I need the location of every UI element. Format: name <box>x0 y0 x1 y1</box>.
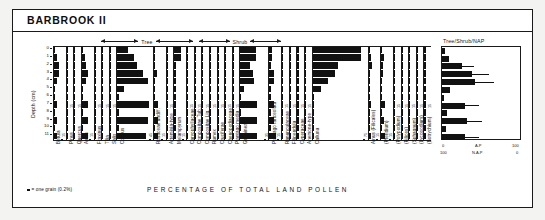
pollen-bar <box>282 125 283 131</box>
pollen-bar <box>225 94 226 100</box>
pollen-bar <box>187 117 188 123</box>
pollen-bar <box>74 54 75 60</box>
pollen-bar <box>233 62 234 68</box>
pollen-bar <box>218 62 219 68</box>
pollen-bar <box>167 62 168 68</box>
pollen-bar <box>110 47 111 53</box>
pollen-bar <box>313 70 336 76</box>
ap-nap-whisker <box>475 82 495 83</box>
pollen-bar <box>269 47 271 53</box>
pollen-bar <box>305 78 306 84</box>
pollen-bar <box>167 86 168 92</box>
pollen-bar <box>117 47 128 53</box>
pollen-bar <box>233 78 234 84</box>
pollen-bar <box>381 70 382 76</box>
pollen-bar <box>297 70 298 76</box>
taxon-label: Ranunculaceae <box>285 111 290 144</box>
depth-tick-mark <box>50 72 52 73</box>
pollen-bar <box>110 70 111 76</box>
pollen-bar <box>417 70 418 76</box>
pollen-bar <box>381 78 382 84</box>
pollen-bar <box>381 54 383 60</box>
ap-nap-whisker <box>472 74 490 75</box>
pollen-bar <box>210 133 211 139</box>
pollen-bar <box>154 101 157 107</box>
group-header-shrub-label: Shrub <box>230 39 251 45</box>
pollen-bar <box>402 117 403 123</box>
pollen-bar <box>313 54 362 60</box>
pollen-bar <box>297 133 298 139</box>
column-scale-label: 15 <box>376 133 380 137</box>
pollen-bar <box>218 109 219 115</box>
pollen-bar <box>381 101 384 107</box>
taxon-label: Cyperaceae <box>300 118 305 144</box>
pollen-bar <box>369 101 371 107</box>
group-header-shrub: Shrub <box>199 37 281 46</box>
pollen-bar <box>233 47 234 53</box>
pollen-bar <box>313 117 314 123</box>
pollen-bar <box>95 70 96 76</box>
pollen-bar <box>225 78 226 84</box>
pollen-bar <box>225 109 226 115</box>
pollen-bar <box>154 125 155 131</box>
pollen-bar <box>95 109 96 115</box>
pollen-bar <box>225 101 226 107</box>
ap-nap-bar <box>442 87 450 93</box>
pollen-bar <box>402 47 403 53</box>
pollen-bar <box>195 70 196 76</box>
pollen-bar <box>174 86 175 92</box>
pollen-bar <box>174 70 175 76</box>
depth-tick-mark <box>50 64 52 65</box>
pollen-bar <box>394 133 395 139</box>
pollen-bar <box>110 109 111 115</box>
pollen-bar <box>82 94 83 100</box>
pollen-bar <box>202 86 203 92</box>
group-header-tree: Tree <box>101 37 193 46</box>
taxon-column <box>53 46 63 140</box>
figure-frame: BARBROOK II Tree Shrub Tree/Shrub/NAP De… <box>12 9 533 208</box>
pollen-bar <box>240 70 252 76</box>
pollen-bar <box>117 101 148 107</box>
pollen-bar <box>174 94 175 100</box>
pollen-bar <box>381 86 382 92</box>
taxon-label: Betula <box>56 130 61 144</box>
pollen-bar <box>187 125 188 131</box>
pollen-bar <box>74 125 75 131</box>
pollen-bar <box>269 94 270 100</box>
pollen-bar <box>402 109 403 115</box>
column-scale-label: 35 <box>265 133 269 137</box>
pollen-bar <box>102 62 103 68</box>
column-scale-label: 15 <box>78 104 82 108</box>
taxon-label: Rumex <box>212 129 217 144</box>
column-scale-label: 45 <box>149 133 153 137</box>
pollen-bar <box>290 70 291 76</box>
taxon-label: Filipendula <box>292 121 297 144</box>
pollen-bar <box>409 54 410 60</box>
pollen-bar <box>297 94 298 100</box>
pollen-bar <box>394 101 395 107</box>
pollen-bar <box>297 47 298 53</box>
pollen-bar <box>82 54 85 60</box>
column-scale-label: 75 <box>364 133 368 137</box>
pollen-bar <box>54 70 59 76</box>
pollen-bar <box>394 94 395 100</box>
ap-nap-whisker <box>465 105 479 106</box>
pollen-bar <box>402 70 403 76</box>
pollen-bar <box>282 86 283 92</box>
pollen-bar <box>95 133 96 139</box>
pollen-bar <box>67 78 68 84</box>
pollen-bar <box>95 117 96 123</box>
pollen-bar <box>67 101 68 107</box>
pollen-bar <box>110 117 111 123</box>
pollen-bar <box>67 94 68 100</box>
pollen-bar <box>394 78 395 84</box>
pollen-bar <box>424 54 425 60</box>
pollen-bar <box>74 117 75 123</box>
pollen-bar <box>240 86 244 92</box>
pollen-bar <box>187 47 188 53</box>
pollen-bar <box>297 62 298 68</box>
summary-axis-bottom-right: 0 <box>516 150 518 155</box>
pollen-bar <box>82 109 83 115</box>
pollen-bar <box>174 117 175 123</box>
taxon-label: Compositae Tub. <box>197 108 202 144</box>
